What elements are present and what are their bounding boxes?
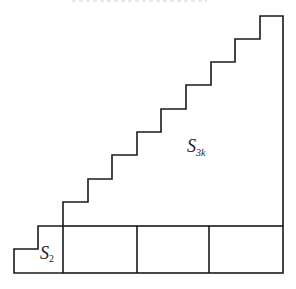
label-s3k: S3k (187, 136, 206, 158)
label-s3k-sub: 3k (195, 147, 206, 158)
small-staircase-outline (14, 226, 63, 273)
label-s3k-main: S (187, 136, 196, 156)
staircase-diagram: S3k S2 (0, 0, 296, 289)
label-s2: S2 (40, 243, 54, 264)
staircase-region-outline (63, 16, 283, 226)
base-row-outline (63, 226, 283, 273)
label-s2-main: S (40, 243, 49, 263)
label-s2-sub: 2 (49, 253, 54, 264)
